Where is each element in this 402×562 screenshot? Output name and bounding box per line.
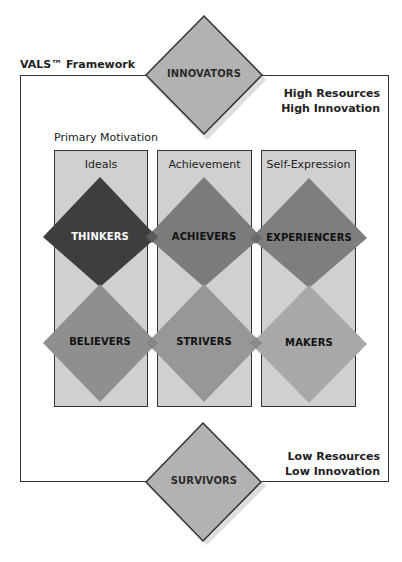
innovators-segment: INNOVATORS — [146, 16, 262, 136]
innovators-label: INNOVATORS — [146, 68, 262, 79]
survivors-segment: SURVIVORS — [146, 423, 262, 543]
survivors-label: SURVIVORS — [146, 475, 262, 486]
